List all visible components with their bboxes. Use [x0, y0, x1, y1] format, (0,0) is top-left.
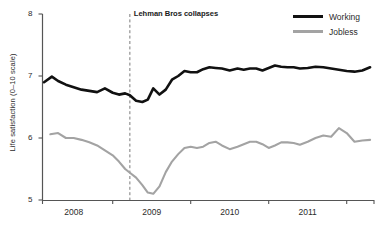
chart-axes	[39, 14, 375, 204]
chart-legend: Working Jobless	[293, 9, 376, 39]
y-tick-label: 8	[19, 9, 33, 18]
legend-swatch-jobless-icon	[293, 30, 323, 33]
y-tick-label: 5	[19, 195, 33, 204]
legend-item-jobless[interactable]: Jobless	[293, 24, 376, 39]
legend-label-working: Working	[329, 12, 360, 22]
chart-series-group	[44, 65, 370, 193]
legend-item-working[interactable]: Working	[293, 9, 376, 24]
x-tick-label: 2011	[283, 207, 333, 217]
chart-figure: Life satisfaction (0–10 scale) 5678 2008…	[0, 0, 376, 225]
x-tick-label: 2008	[49, 207, 99, 217]
annotation-label: Lehman Bros collapses	[134, 9, 218, 18]
series-line-working	[44, 65, 370, 102]
y-tick-label: 7	[19, 71, 33, 80]
y-tick-label: 6	[19, 133, 33, 142]
legend-label-jobless: Jobless	[329, 27, 358, 37]
series-line-jobless	[50, 128, 370, 194]
x-tick-label: 2009	[127, 207, 177, 217]
x-tick-label: 2010	[205, 207, 255, 217]
legend-swatch-working-icon	[293, 15, 323, 18]
